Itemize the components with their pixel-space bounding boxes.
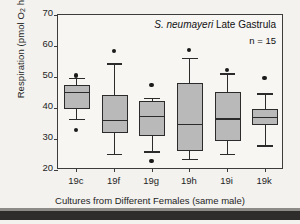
whisker-lower <box>227 141 228 154</box>
whisker-cap-upper <box>220 73 236 74</box>
whisker-cap-upper <box>144 98 160 99</box>
median-line <box>102 120 128 121</box>
whisker-upper <box>189 58 190 83</box>
sample-size-annotation: n = 15 <box>249 35 276 46</box>
x-tick-mark <box>227 168 228 172</box>
y-axis-tick-labels: 706050403020 <box>28 0 53 224</box>
x-axis-title: Cultures from Different Females (same ma… <box>0 195 300 206</box>
whisker-cap-lower <box>107 154 123 155</box>
whisker-cap-upper <box>182 58 198 59</box>
y-tick-mark <box>54 139 58 140</box>
x-tick-label: 19k <box>244 175 284 186</box>
outlier-point <box>149 159 153 163</box>
box-iqr <box>64 85 90 109</box>
box-plot-19i <box>228 15 229 168</box>
median-line <box>64 92 90 93</box>
outlier-point <box>149 83 153 87</box>
whisker-lower <box>114 133 115 154</box>
y-axis-title-prefix: Respiration (pmol O <box>15 12 26 98</box>
whisker-lower <box>265 125 266 145</box>
y-axis-title: Respiration (pmol O2 h-1 embryo-1) <box>15 0 26 104</box>
outlier-point <box>112 49 116 53</box>
median-line <box>139 116 165 117</box>
x-tick-mark <box>76 168 77 172</box>
box-iqr <box>102 95 128 134</box>
plot-area: S. neumayeri Late Gastrula n = 15 <box>57 14 283 169</box>
scan-edge-dark <box>0 211 300 220</box>
box-plot-19k <box>265 15 266 168</box>
whisker-lower <box>76 109 77 120</box>
y-axis-title-mid: h <box>15 0 26 8</box>
y-tick-label: 70 <box>31 8 53 18</box>
y-tick-label: 60 <box>31 39 53 49</box>
outlier-point <box>225 68 229 72</box>
x-tick-mark <box>152 168 153 172</box>
y-tick-mark <box>54 170 58 171</box>
box-iqr <box>177 83 203 151</box>
box-plot-19h <box>190 15 191 168</box>
outlier-point <box>187 48 191 52</box>
plot-title: S. neumayeri Late Gastrula <box>154 19 276 30</box>
plot-title-rest: Late Gastrula <box>213 19 276 30</box>
figure-box-plot: Respiration (pmol O2 h-1 embryo-1) 70605… <box>0 0 300 224</box>
x-tick-label: 19f <box>94 175 134 186</box>
y-tick-label: 40 <box>31 101 53 111</box>
whisker-lower <box>152 136 153 152</box>
plot-title-species: S. neumayeri <box>154 19 213 30</box>
y-tick-label: 30 <box>31 132 53 142</box>
whisker-cap-upper <box>69 78 85 79</box>
y-tick-mark <box>54 15 58 16</box>
median-line <box>252 117 278 118</box>
whisker-cap-lower <box>182 159 198 160</box>
box-plot-19c <box>77 15 78 168</box>
whisker-cap-upper <box>107 63 123 64</box>
y-tick-mark <box>54 46 58 47</box>
x-tick-mark <box>114 168 115 172</box>
outlier-point <box>262 76 266 80</box>
whisker-upper <box>227 74 228 92</box>
whisker-upper <box>265 94 266 109</box>
y-tick-label: 20 <box>31 163 53 173</box>
x-tick-mark <box>265 168 266 172</box>
whisker-cap-lower <box>69 119 85 120</box>
box-plot-19g <box>152 15 153 168</box>
whisker-cap-lower <box>144 151 160 152</box>
x-tick-label: 19g <box>131 175 171 186</box>
x-tick-label: 19h <box>169 175 209 186</box>
median-line <box>177 124 203 125</box>
y-tick-mark <box>54 77 58 78</box>
whisker-cap-lower <box>257 145 273 146</box>
y-tick-label: 50 <box>31 70 53 80</box>
whisker-cap-lower <box>220 154 236 155</box>
y-axis-title-sub-o2: 2 <box>19 8 26 12</box>
x-tick-label: 19c <box>56 175 96 186</box>
x-tick-mark <box>189 168 190 172</box>
y-tick-mark <box>54 108 58 109</box>
outlier-point <box>74 128 78 132</box>
whisker-cap-upper <box>257 93 273 94</box>
median-line <box>215 118 241 119</box>
box-plot-19f <box>115 15 116 168</box>
box-iqr <box>215 92 241 141</box>
outlier-point <box>74 73 78 77</box>
box-iqr <box>139 101 165 136</box>
x-tick-label: 19i <box>207 175 247 186</box>
whisker-upper <box>114 64 115 95</box>
